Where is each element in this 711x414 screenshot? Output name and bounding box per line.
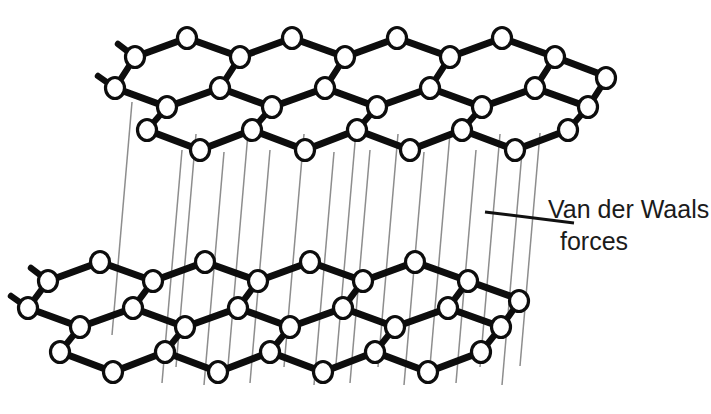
carbon-atom	[191, 140, 210, 161]
carbon-atom	[439, 298, 458, 319]
carbon-atom	[176, 317, 195, 338]
carbon-atom	[368, 97, 387, 118]
carbon-atom	[71, 317, 90, 338]
carbon-atom	[296, 140, 315, 161]
carbon-atom	[406, 252, 425, 273]
carbon-atom	[388, 28, 407, 49]
carbon-atom	[231, 47, 250, 68]
carbon-atom	[106, 78, 125, 99]
carbon-atom	[243, 120, 262, 141]
carbon-atom	[419, 362, 438, 383]
vdw-label-line2: forces	[560, 227, 628, 255]
carbon-atom	[39, 271, 58, 292]
carbon-atom	[138, 120, 157, 141]
carbon-atom	[492, 317, 511, 338]
carbon-atom	[229, 298, 248, 319]
carbon-atom	[546, 47, 565, 68]
carbon-atom	[559, 120, 578, 141]
carbon-atom	[104, 362, 123, 383]
carbon-atom	[196, 252, 215, 273]
carbon-atom	[459, 271, 478, 292]
carbon-atom	[281, 317, 300, 338]
carbon-atom	[91, 252, 110, 273]
carbon-atom	[506, 140, 525, 161]
carbon-atom	[401, 140, 420, 161]
carbon-atom	[283, 28, 302, 49]
carbon-atom	[156, 342, 175, 363]
carbon-atom	[510, 291, 529, 312]
carbon-atom	[316, 78, 335, 99]
carbon-atom	[51, 342, 70, 363]
carbon-atom	[421, 78, 440, 99]
carbon-atom	[263, 97, 282, 118]
carbon-atom	[124, 298, 143, 319]
carbon-atom	[261, 342, 280, 363]
carbon-atom	[209, 362, 228, 383]
carbon-atom	[301, 252, 320, 273]
carbon-atom	[249, 271, 268, 292]
carbon-atom	[144, 271, 163, 292]
carbon-atom	[211, 78, 230, 99]
carbon-atom	[441, 47, 460, 68]
carbon-atom	[178, 28, 197, 49]
carbon-atom	[336, 47, 355, 68]
carbon-atom	[453, 120, 472, 141]
vdw-label-line1: Van der Waals	[548, 195, 709, 223]
carbon-atom	[473, 97, 492, 118]
carbon-atom	[366, 342, 385, 363]
carbon-atom	[158, 97, 177, 118]
carbon-atom	[314, 362, 333, 383]
carbon-atom	[348, 120, 367, 141]
carbon-atom	[19, 298, 38, 319]
carbon-atom	[526, 78, 545, 99]
carbon-atom	[126, 47, 145, 68]
carbon-atom	[493, 28, 512, 49]
carbon-atom	[579, 97, 598, 118]
carbon-atom	[472, 342, 491, 363]
graphite-structure-figure: Van der Waals forces	[0, 0, 711, 414]
carbon-atom	[334, 298, 353, 319]
carbon-atom	[386, 317, 405, 338]
carbon-atom	[597, 68, 616, 89]
carbon-atom	[354, 271, 373, 292]
graphite-lattice-illustration: Van der Waals forces	[0, 0, 711, 414]
